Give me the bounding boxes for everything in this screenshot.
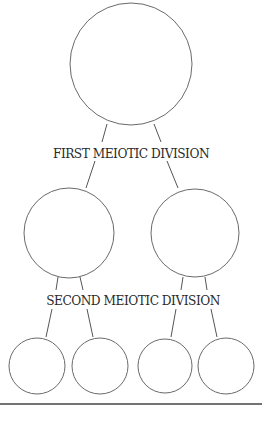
connector-rr-lower bbox=[211, 309, 217, 337]
granddaughter-cell-2 bbox=[72, 338, 128, 394]
connector-ll-upper bbox=[56, 277, 58, 290]
connector-right-lower bbox=[167, 161, 178, 188]
connector-lr-upper bbox=[80, 277, 83, 290]
connector-left-lower bbox=[86, 161, 95, 188]
connector-left-upper bbox=[102, 124, 107, 142]
connector-ll-lower bbox=[46, 309, 52, 337]
first-division-label: FIRST MEIOTIC DIVISION bbox=[53, 147, 210, 161]
meiosis-diagram: FIRST MEIOTIC DIVISION SECOND MEIOTIC DI… bbox=[0, 0, 271, 430]
connector-right-upper bbox=[154, 124, 161, 142]
granddaughter-cell-3 bbox=[138, 339, 192, 393]
daughter-cell-right bbox=[151, 189, 239, 277]
connector-rl-upper bbox=[181, 277, 183, 290]
granddaughter-cell-4 bbox=[198, 338, 254, 394]
granddaughter-cell-1 bbox=[9, 338, 65, 394]
connector-rr-upper bbox=[205, 277, 207, 290]
daughter-cell-left bbox=[24, 188, 114, 278]
connector-rl-lower bbox=[171, 309, 176, 337]
connector-lr-lower bbox=[87, 309, 93, 337]
parent-cell bbox=[70, 3, 192, 125]
second-division-label: SECOND MEIOTIC DIVISION bbox=[46, 294, 221, 308]
